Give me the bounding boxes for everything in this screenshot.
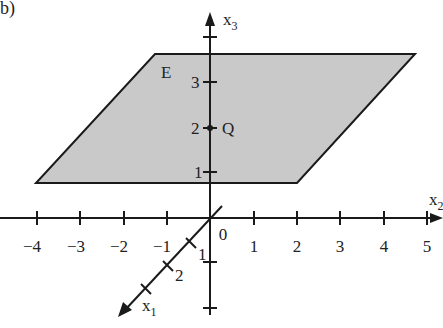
- x1-axis: [125, 206, 222, 310]
- x1-tick-1: 1: [198, 245, 207, 264]
- x2-tick-4: 4: [380, 237, 389, 256]
- x3-axis-label: x3: [223, 10, 238, 33]
- x2-axis-label: x2: [429, 190, 443, 213]
- x3-tick-3: 3: [191, 73, 200, 92]
- x2-arrow-icon: [430, 213, 443, 223]
- x1-tick-2: 2: [175, 266, 184, 285]
- x2-tick-2: 2: [293, 237, 302, 256]
- x2-tick--3: −3: [67, 237, 85, 256]
- part-label: b): [0, 0, 15, 19]
- coordinate-diagram: b) E Q x3 x2 x1 3 2 1 −4 −3 −2 −1 0 1 2 …: [0, 0, 443, 328]
- x2-tick-5: 5: [423, 237, 432, 256]
- x3-tick-1: 1: [194, 163, 203, 182]
- x2-tick--2: −2: [110, 237, 128, 256]
- point-q-marker: [207, 125, 213, 131]
- x3-tick-2: 2: [191, 119, 200, 138]
- x3-arrow-icon: [205, 12, 215, 26]
- x2-tick-3: 3: [336, 237, 345, 256]
- x2-tick--1: −1: [153, 237, 171, 256]
- x2-tick--4: −4: [23, 237, 42, 256]
- point-label: Q: [222, 119, 234, 138]
- x2-tick-0: 0: [219, 225, 228, 244]
- plane-label: E: [161, 63, 171, 82]
- x1-axis-label: x1: [142, 296, 157, 319]
- x2-tick-1: 1: [250, 237, 259, 256]
